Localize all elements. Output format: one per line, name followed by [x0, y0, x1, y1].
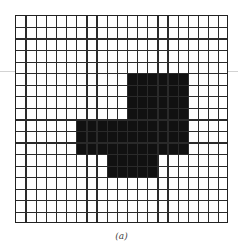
- grid-horizontal-line: [16, 119, 227, 120]
- figure-caption: (a): [0, 231, 238, 241]
- pixel-grid: [15, 15, 228, 223]
- grid-horizontal-line: [16, 96, 227, 97]
- grid-horizontal-line: [16, 131, 227, 132]
- grid-horizontal-line: [16, 166, 227, 167]
- grid-horizontal-line: [16, 212, 227, 213]
- grid-horizontal-line: [16, 189, 227, 190]
- grid-horizontal-line: [16, 62, 227, 63]
- grid-horizontal-line: [16, 177, 227, 178]
- grid-horizontal-line: [16, 27, 227, 28]
- grid-horizontal-line: [16, 154, 227, 155]
- grid-horizontal-line: [16, 200, 227, 201]
- grid-horizontal-line: [16, 38, 227, 39]
- grid-horizontal-line: [16, 108, 227, 109]
- middle-band: [77, 120, 189, 155]
- grid-horizontal-line: [16, 142, 227, 143]
- grid-horizontal-line: [16, 73, 227, 74]
- grid-horizontal-line: [16, 50, 227, 51]
- grid-horizontal-line: [16, 85, 227, 86]
